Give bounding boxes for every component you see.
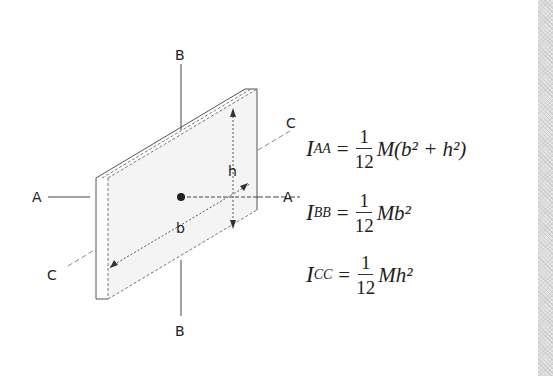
thin-plate-diagram: B B A A C C h b xyxy=(0,0,300,376)
fraction: 112 xyxy=(356,253,375,297)
label-C-upper: C xyxy=(286,115,296,131)
label-A-left: A xyxy=(32,189,42,205)
label-A-right: A xyxy=(283,189,293,205)
equation-I-CC: ICC = 112 Mh² xyxy=(306,253,413,297)
fraction: 112 xyxy=(355,191,374,235)
label-C-lower: C xyxy=(47,267,57,283)
label-B-bottom: B xyxy=(175,323,185,339)
fraction: 112 xyxy=(355,127,374,171)
label-h: h xyxy=(228,163,237,179)
label-B-top: B xyxy=(175,47,185,63)
equation-I-BB: IBB = 112 Mb² xyxy=(306,191,411,235)
page-edge-stripe xyxy=(538,0,553,376)
equation-I-AA: IAA = 112 M(b² + h²) xyxy=(306,127,466,171)
centroid-dot xyxy=(177,193,185,201)
label-b: b xyxy=(176,220,185,236)
